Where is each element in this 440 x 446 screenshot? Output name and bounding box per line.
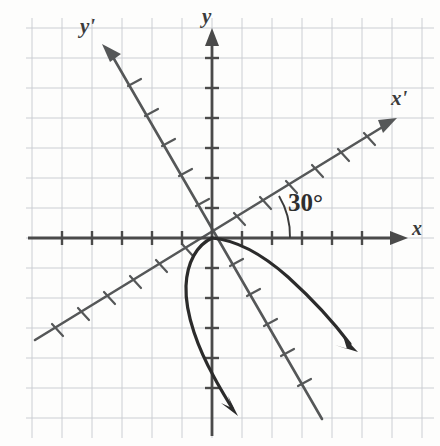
y-prime-axis-label: y' (80, 16, 95, 37)
x-axis-label: x (412, 218, 422, 238)
x-prime-arrowhead (378, 118, 397, 133)
y-axis-arrowhead (205, 28, 219, 46)
x-axis-arrowhead (390, 231, 408, 245)
x-prime-axis (35, 118, 397, 340)
figure-canvas: x y x' y' 30° (0, 0, 440, 446)
x-prime-axis-label: x' (391, 88, 407, 109)
y-axis-label: y (202, 6, 211, 27)
rotation-angle-label: 30° (288, 190, 323, 215)
grid-lines (26, 18, 434, 438)
y-prime-arrowhead (102, 44, 121, 62)
graph-svg (0, 0, 440, 446)
